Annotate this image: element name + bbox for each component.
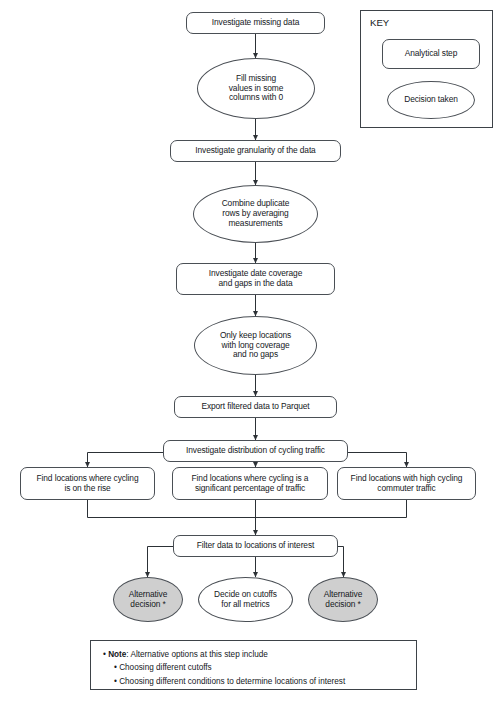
note-line-1: • Note: Alternative options at this step… xyxy=(103,648,406,661)
node-investigate-granularity[interactable]: Investigate granularity of the data xyxy=(170,140,341,162)
node-filter-data-locations[interactable]: Filter data to locations of interest xyxy=(173,535,338,557)
node-label: Alternative decision * xyxy=(129,590,167,610)
node-label: Find locations where cycling is a signif… xyxy=(192,474,309,494)
node-label: Alternative decision * xyxy=(324,590,362,610)
node-only-keep-locations[interactable]: Only keep locations with long coverage a… xyxy=(194,316,317,375)
note-box: • Note: Alternative options at this step… xyxy=(90,640,417,690)
note-line-1-rest: : Alternative options at this step inclu… xyxy=(126,650,268,659)
node-find-locations-significant-percentage[interactable]: Find locations where cycling is a signif… xyxy=(172,467,328,500)
key-sample-decision-taken: Decision taken xyxy=(387,81,475,119)
flowchart-canvas: Investigate missing data Fill missing va… xyxy=(0,0,502,713)
node-combine-duplicate-rows[interactable]: Combine duplicate rows by averaging meas… xyxy=(193,185,318,243)
key-title: KEY xyxy=(370,17,389,28)
key-sample-analytical-step: Analytical step xyxy=(382,39,480,69)
node-export-filtered-data[interactable]: Export filtered data to Parquet xyxy=(174,396,337,418)
bullet-icon: • xyxy=(103,650,106,659)
bullet-icon: • xyxy=(114,663,117,672)
node-alternative-decision-right[interactable]: Alternative decision * xyxy=(308,577,378,622)
node-label: Export filtered data to Parquet xyxy=(201,402,309,412)
node-label: Only keep locations with long coverage a… xyxy=(220,331,291,361)
node-label: Investigate date coverage and gaps in th… xyxy=(209,269,302,289)
node-label: Combine duplicate rows by averaging meas… xyxy=(222,199,290,229)
note-line-3: • Choosing different conditions to deter… xyxy=(103,675,406,688)
note-keyword: Note xyxy=(108,650,126,659)
note-line-2-text: Choosing different cutoffs xyxy=(119,663,212,672)
node-label: Find locations with high cycling commute… xyxy=(351,474,463,494)
key-decision-label: Decision taken xyxy=(404,95,458,105)
node-find-locations-commuter[interactable]: Find locations with high cycling commute… xyxy=(337,467,476,500)
node-investigate-date-coverage[interactable]: Investigate date coverage and gaps in th… xyxy=(176,263,335,295)
node-find-locations-rising[interactable]: Find locations where cycling is on the r… xyxy=(20,467,155,500)
node-label: Investigate missing data xyxy=(212,18,299,28)
node-fill-missing-values[interactable]: Fill missing values in some columns with… xyxy=(197,58,315,119)
note-line-3-text: Choosing different conditions to determi… xyxy=(119,677,345,686)
node-label: Investigate distribution of cycling traf… xyxy=(186,446,325,456)
node-decide-on-cutoffs[interactable]: Decide on cutoffs for all metrics xyxy=(198,577,293,622)
node-label: Fill missing values in some columns with… xyxy=(229,74,283,104)
node-label: Decide on cutoffs for all metrics xyxy=(214,590,277,610)
bullet-icon: • xyxy=(114,677,117,686)
node-label: Investigate granularity of the data xyxy=(195,146,315,156)
key-step-label: Analytical step xyxy=(405,49,458,59)
node-label: Find locations where cycling is on the r… xyxy=(37,474,139,494)
note-line-2: • Choosing different cutoffs xyxy=(103,661,406,674)
node-investigate-distribution[interactable]: Investigate distribution of cycling traf… xyxy=(163,440,348,462)
node-alternative-decision-left[interactable]: Alternative decision * xyxy=(113,577,183,622)
node-investigate-missing-data[interactable]: Investigate missing data xyxy=(186,12,325,34)
key-legend-box: KEY Analytical step Decision taken xyxy=(360,10,493,128)
node-label: Filter data to locations of interest xyxy=(197,541,314,551)
